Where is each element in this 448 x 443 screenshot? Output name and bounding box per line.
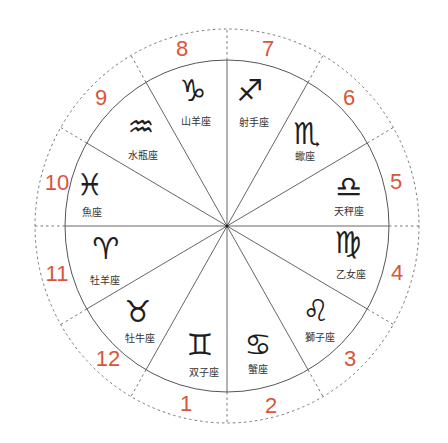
- leo-icon: ♌︎: [303, 293, 330, 328]
- zodiac-wheel: 876543211211109 ♑︎♐︎♏︎♎︎♍︎♌︎♋︎♊︎♉︎♈︎♓︎♒︎…: [0, 0, 448, 443]
- sign-label-sagittarius: 射手座: [239, 116, 269, 128]
- sign-label-virgo: 乙女座: [336, 268, 366, 280]
- house-cusp-dashed-line: [61, 309, 87, 325]
- sign-label-scorpio: 蠍座: [295, 150, 315, 162]
- gemini-icon: ♊︎: [187, 327, 214, 362]
- house-cusp-dashed-line: [367, 128, 393, 144]
- house-number-7: 7: [262, 36, 274, 61]
- house-number-12: 12: [96, 346, 120, 371]
- sign-label-libra: 天秤座: [334, 205, 364, 217]
- house-number-1: 1: [180, 391, 192, 416]
- house-cusp-dashed-line: [308, 55, 323, 82]
- house-number-4: 4: [391, 260, 403, 285]
- cancer-icon: ♋︎: [245, 327, 272, 362]
- sign-label-leo: 獅子座: [305, 331, 335, 343]
- sign-label-pisces: 魚座: [82, 206, 102, 218]
- aries-icon: ♈︎: [93, 231, 120, 266]
- pisces-icon: ♓︎: [77, 167, 104, 202]
- house-cusp-dashed-line: [131, 55, 146, 82]
- house-number-11: 11: [46, 261, 69, 286]
- sign-label-taurus: 牡牛座: [125, 332, 155, 344]
- center-point: [225, 224, 228, 227]
- sign-label-aquarius: 水瓶座: [128, 149, 158, 161]
- house-cusp-dashed-line: [367, 309, 393, 325]
- crescent-moon-icon: [235, 149, 252, 165]
- virgo-icon: ♍︎: [335, 225, 362, 260]
- sign-label-cancer: 蟹座: [248, 363, 268, 375]
- house-cusp-dashed-line: [61, 128, 87, 144]
- libra-icon: ♎︎: [336, 169, 363, 204]
- house-number-5: 5: [390, 169, 402, 194]
- house-cusp-dashed-line: [131, 370, 146, 397]
- house-number-9: 9: [95, 85, 107, 110]
- sign-label-aries: 牡羊座: [90, 274, 120, 286]
- sign-label-gemini: 双子座: [189, 366, 219, 378]
- scorpio-icon: ♏︎: [294, 116, 321, 151]
- taurus-icon: ♉︎: [125, 294, 152, 329]
- sagittarius-icon: ♐︎: [237, 73, 264, 108]
- capricorn-icon: ♑︎: [180, 73, 207, 108]
- house-number-10: 10: [45, 170, 69, 195]
- house-number-2: 2: [265, 393, 277, 418]
- house-number-6: 6: [343, 85, 355, 110]
- sign-label-capricorn: 山羊座: [181, 115, 211, 127]
- house-cusp-dashed-line: [308, 370, 323, 397]
- house-number-3: 3: [344, 346, 356, 371]
- aquarius-icon: ♒︎: [128, 109, 155, 144]
- house-number-8: 8: [176, 36, 188, 61]
